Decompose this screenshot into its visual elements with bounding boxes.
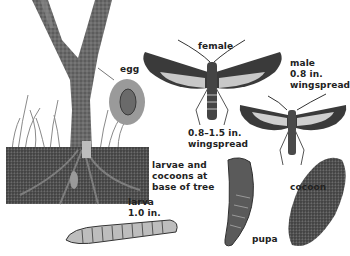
label-larva-size: 1.0 in.: [128, 208, 161, 218]
label-female-size: 0.8–1.5 in.: [188, 128, 242, 138]
pupa-illustration: [225, 158, 254, 246]
larva-illustration: [66, 220, 177, 244]
label-female-wingspread: wingspread: [188, 139, 248, 149]
male-moth: [240, 94, 347, 165]
label-male: male: [290, 58, 315, 68]
label-female: female: [198, 41, 233, 51]
label-cocoons-at: cocoons at: [152, 171, 208, 181]
label-pupa: pupa: [252, 234, 278, 244]
grass: [12, 95, 126, 150]
cocoon-in-soil: [82, 141, 91, 158]
label-male-wingspread: wingspread: [290, 80, 350, 90]
label-egg: egg: [120, 64, 139, 74]
cocoon-illustration: [288, 158, 345, 246]
larva-in-soil: [70, 171, 78, 189]
tree-trunk: [32, 0, 112, 150]
label-cocoon: cocoon: [290, 182, 326, 192]
label-base-of-tree: base of tree: [152, 182, 215, 192]
label-larva: larva: [128, 197, 154, 207]
egg-illustration: [98, 68, 145, 125]
label-larvae-and: larvae and: [152, 160, 207, 170]
label-male-size: 0.8 in.: [290, 69, 323, 79]
soil-block: [6, 141, 149, 204]
